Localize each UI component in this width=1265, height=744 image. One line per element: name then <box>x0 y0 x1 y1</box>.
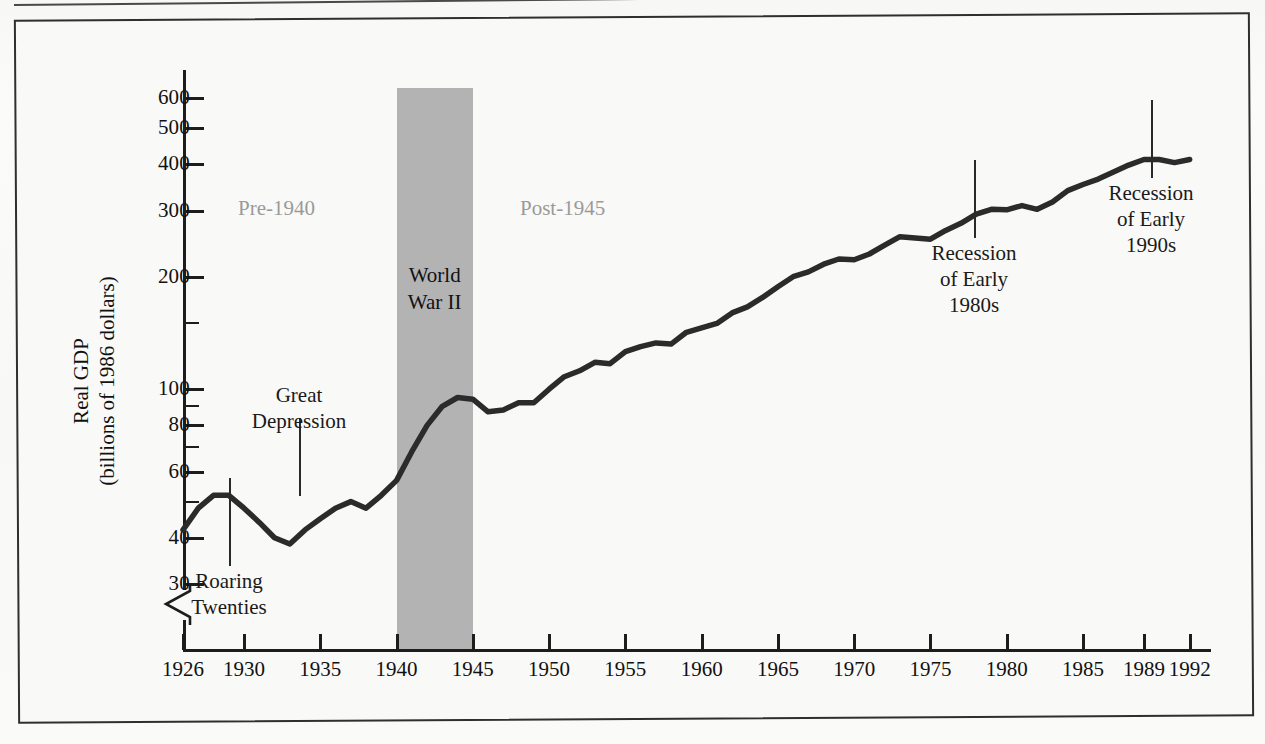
recession-1990s-leader-line <box>1151 100 1153 178</box>
recession-1990s-line2: of Early <box>1108 206 1193 232</box>
scanned-page: World War II Real GDP (billions of 1986 … <box>0 0 1265 744</box>
great-depression-line2: Depression <box>252 408 346 434</box>
roaring-twenties-annotation: Roaring Twenties <box>191 568 267 620</box>
recession-1980s-line2: of Early <box>931 266 1016 292</box>
great-depression-line1: Great <box>252 382 346 408</box>
recession-1980s-line1: Recession <box>931 240 1016 266</box>
gdp-line-series <box>0 0 1265 744</box>
recession-1980s-leader-line <box>974 160 976 238</box>
recession-1990s-annotation: Recession of Early 1990s <box>1108 180 1193 258</box>
roaring-twenties-line1: Roaring <box>191 568 267 594</box>
era-label-pre-1940: Pre-1940 <box>238 196 315 221</box>
recession-1980s-annotation: Recession of Early 1980s <box>931 240 1016 318</box>
roaring-twenties-leader-line <box>229 478 231 566</box>
great-depression-annotation: Great Depression <box>252 382 346 434</box>
recession-1990s-line3: 1990s <box>1108 232 1193 258</box>
recession-1990s-line1: Recession <box>1108 180 1193 206</box>
chart-plot-area: World War II Real GDP (billions of 1986 … <box>0 0 1265 744</box>
era-label-post-1945: Post-1945 <box>520 196 605 221</box>
roaring-twenties-line2: Twenties <box>191 594 267 620</box>
recession-1980s-line3: 1980s <box>931 292 1016 318</box>
